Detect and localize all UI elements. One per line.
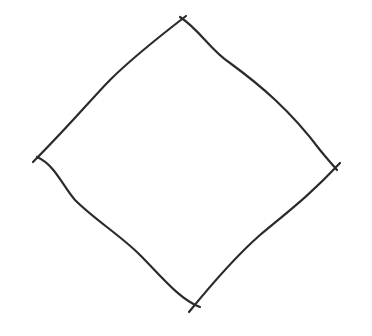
bottom-left-edge [37,157,200,307]
bottom-right-edge [189,163,340,312]
top-right-edge [180,17,337,170]
diamond-shape [0,0,372,336]
diagram-canvas [0,0,372,336]
top-left-edge [33,16,186,162]
